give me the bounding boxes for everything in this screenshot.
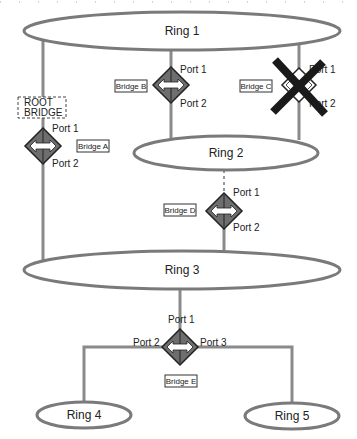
network-diagram: Ring 1 Ring 2 Ring 3 Ring 4 Ring 5 ROOT … — [0, 0, 357, 439]
bridge-b-label: Bridge B — [116, 82, 147, 91]
bridge-c-label: Bridge C — [240, 82, 271, 91]
bridge-d-port2: Port 2 — [233, 222, 260, 233]
link-bridge-e-ring5 — [197, 347, 292, 404]
link-bridge-e-ring4 — [84, 347, 163, 402]
bridge-a-port1: Port 1 — [52, 123, 79, 134]
bridge-e-port3: Port 3 — [200, 337, 227, 348]
ring-3-label: Ring 3 — [165, 263, 200, 277]
ring-5-label: Ring 5 — [275, 409, 310, 423]
bridge-e-port2: Port 2 — [133, 337, 160, 348]
bridge-a-port2: Port 2 — [52, 158, 79, 169]
bridge-d-label: Bridge D — [164, 206, 195, 215]
root-bridge-label-line2: BRIDGE — [24, 107, 63, 118]
bridge-d-port1: Port 1 — [233, 187, 260, 198]
ring-1-label: Ring 1 — [165, 24, 200, 38]
bridge-b-port1: Port 1 — [180, 64, 207, 75]
bridge-e-icon — [162, 329, 198, 365]
bridge-e-port1: Port 1 — [168, 314, 195, 325]
ring-4-label: Ring 4 — [67, 408, 102, 422]
bridge-a-label: Bridge A — [78, 142, 109, 151]
bridge-b-port2: Port 2 — [180, 98, 207, 109]
bridge-e-label: Bridge E — [166, 377, 197, 386]
ring-2-label: Ring 2 — [209, 146, 244, 160]
